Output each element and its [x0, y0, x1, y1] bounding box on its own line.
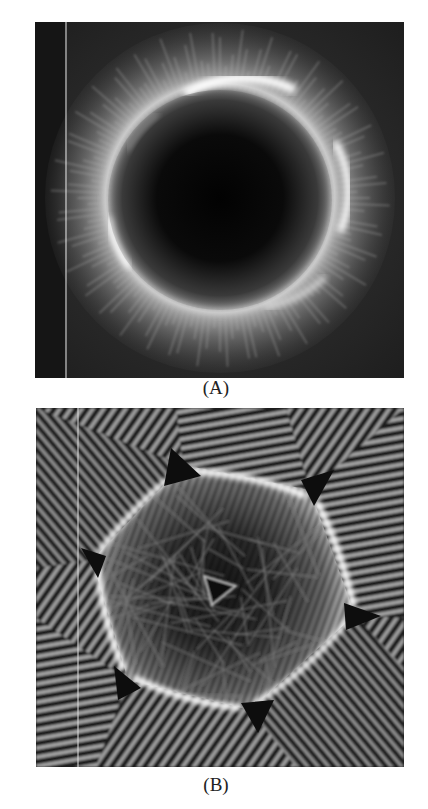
panel-a-label: (A)	[186, 378, 246, 397]
panel-b-interference-graphic	[36, 408, 404, 767]
panel-b-image	[36, 408, 404, 767]
panel-a-ring-graphic	[35, 22, 404, 378]
panel-a-image	[35, 22, 404, 378]
panel-b-label: (B)	[186, 775, 246, 794]
